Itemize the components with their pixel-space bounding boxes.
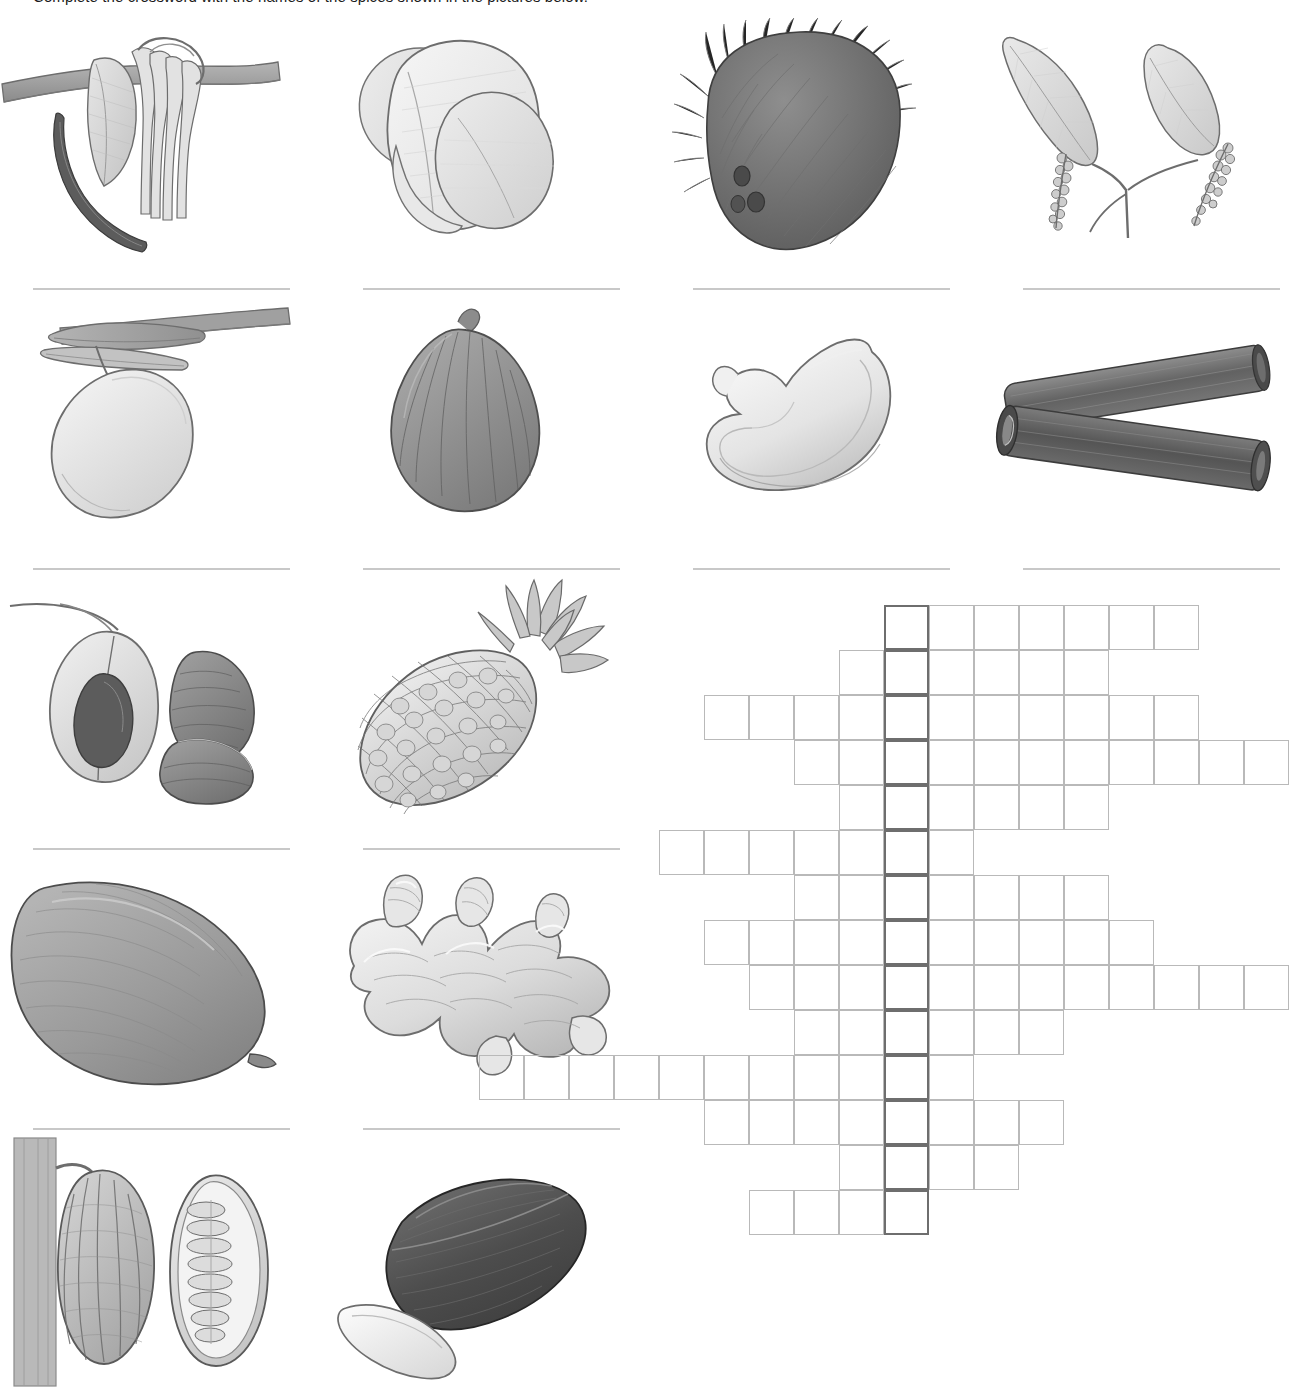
crossword-cell-r3-c16[interactable] xyxy=(1199,740,1244,785)
crossword-cell-r4-c12[interactable] xyxy=(1019,785,1064,830)
crossword-cell-r2-c15[interactable] xyxy=(1154,695,1199,740)
crossword-cell-r3-c10[interactable] xyxy=(929,740,974,785)
crossword-cell-r1-c13[interactable] xyxy=(1064,650,1109,695)
crossword-cell-r5-c9[interactable] xyxy=(884,830,929,875)
answer-line[interactable] xyxy=(1023,568,1280,570)
crossword-cell-r7-c11[interactable] xyxy=(974,920,1019,965)
answer-line[interactable] xyxy=(33,568,290,570)
answer-line[interactable] xyxy=(363,848,620,850)
crossword-cell-r4-c9[interactable] xyxy=(884,785,929,830)
crossword-cell-r11-c8[interactable] xyxy=(839,1100,884,1145)
crossword-cell-r3-c7[interactable] xyxy=(794,740,839,785)
answer-line[interactable] xyxy=(1023,288,1280,290)
crossword-cell-r6-c7[interactable] xyxy=(794,875,839,920)
crossword-cell-r10-c5[interactable] xyxy=(704,1055,749,1100)
crossword-cell-r4-c8[interactable] xyxy=(839,785,884,830)
crossword-cell-r0-c12[interactable] xyxy=(1019,605,1064,650)
crossword-cell-r9-c9[interactable] xyxy=(884,1010,929,1055)
crossword-cell-r11-c12[interactable] xyxy=(1019,1100,1064,1145)
answer-line[interactable] xyxy=(693,568,950,570)
crossword-cell-r7-c9[interactable] xyxy=(884,920,929,965)
crossword-cell-r1-c9[interactable] xyxy=(884,650,929,695)
crossword-cell-r8-c9[interactable] xyxy=(884,965,929,1010)
crossword-cell-r10-c8[interactable] xyxy=(839,1055,884,1100)
crossword-cell-r0-c13[interactable] xyxy=(1064,605,1109,650)
crossword-cell-r2-c12[interactable] xyxy=(1019,695,1064,740)
crossword-cell-r9-c8[interactable] xyxy=(839,1010,884,1055)
crossword-cell-r6-c9[interactable] xyxy=(884,875,929,920)
crossword-cell-r11-c7[interactable] xyxy=(794,1100,839,1145)
crossword-cell-r7-c8[interactable] xyxy=(839,920,884,965)
crossword-cell-r11-c5[interactable] xyxy=(704,1100,749,1145)
crossword-cell-r2-c10[interactable] xyxy=(929,695,974,740)
crossword-cell-r7-c12[interactable] xyxy=(1019,920,1064,965)
answer-line[interactable] xyxy=(693,288,950,290)
crossword-cell-r8-c11[interactable] xyxy=(974,965,1019,1010)
crossword-cell-r12-c8[interactable] xyxy=(839,1145,884,1190)
crossword-cell-r11-c6[interactable] xyxy=(749,1100,794,1145)
crossword-cell-r9-c11[interactable] xyxy=(974,1010,1019,1055)
crossword-cell-r7-c10[interactable] xyxy=(929,920,974,965)
crossword-cell-r1-c8[interactable] xyxy=(839,650,884,695)
crossword-cell-r3-c13[interactable] xyxy=(1064,740,1109,785)
crossword-cell-r8-c12[interactable] xyxy=(1019,965,1064,1010)
crossword-cell-r0-c15[interactable] xyxy=(1154,605,1199,650)
answer-line[interactable] xyxy=(33,848,290,850)
crossword-cell-r10-c4[interactable] xyxy=(659,1055,704,1100)
crossword-cell-r5-c5[interactable] xyxy=(704,830,749,875)
crossword-cell-r0-c10[interactable] xyxy=(929,605,974,650)
answer-line[interactable] xyxy=(33,288,290,290)
crossword-cell-r13-c6[interactable] xyxy=(749,1190,794,1235)
answer-line[interactable] xyxy=(363,1128,620,1130)
crossword-cell-r3-c12[interactable] xyxy=(1019,740,1064,785)
answer-line[interactable] xyxy=(33,1128,290,1130)
crossword-cell-r12-c10[interactable] xyxy=(929,1145,974,1190)
crossword-cell-r11-c11[interactable] xyxy=(974,1100,1019,1145)
crossword-cell-r6-c13[interactable] xyxy=(1064,875,1109,920)
crossword-cell-r6-c12[interactable] xyxy=(1019,875,1064,920)
crossword-cell-r10-c2[interactable] xyxy=(569,1055,614,1100)
crossword-cell-r7-c6[interactable] xyxy=(749,920,794,965)
crossword-cell-r2-c6[interactable] xyxy=(749,695,794,740)
crossword-cell-r0-c14[interactable] xyxy=(1109,605,1154,650)
crossword-cell-r10-c10[interactable] xyxy=(929,1055,974,1100)
crossword-cell-r2-c11[interactable] xyxy=(974,695,1019,740)
crossword-cell-r8-c13[interactable] xyxy=(1064,965,1109,1010)
crossword-cell-r4-c11[interactable] xyxy=(974,785,1019,830)
crossword-cell-r5-c6[interactable] xyxy=(749,830,794,875)
crossword-cell-r2-c5[interactable] xyxy=(704,695,749,740)
crossword-cell-r8-c6[interactable] xyxy=(749,965,794,1010)
crossword-cell-r10-c7[interactable] xyxy=(794,1055,839,1100)
crossword-cell-r5-c10[interactable] xyxy=(929,830,974,875)
crossword-cell-r2-c8[interactable] xyxy=(839,695,884,740)
crossword-cell-r6-c11[interactable] xyxy=(974,875,1019,920)
crossword-cell-r9-c7[interactable] xyxy=(794,1010,839,1055)
crossword-cell-r8-c14[interactable] xyxy=(1109,965,1154,1010)
crossword-cell-r12-c9[interactable] xyxy=(884,1145,929,1190)
crossword-cell-r2-c9[interactable] xyxy=(884,695,929,740)
crossword-cell-r8-c16[interactable] xyxy=(1199,965,1244,1010)
crossword-cell-r10-c9[interactable] xyxy=(884,1055,929,1100)
crossword-cell-r7-c13[interactable] xyxy=(1064,920,1109,965)
crossword-cell-r6-c8[interactable] xyxy=(839,875,884,920)
crossword-cell-r7-c5[interactable] xyxy=(704,920,749,965)
crossword-cell-r8-c8[interactable] xyxy=(839,965,884,1010)
crossword-cell-r3-c11[interactable] xyxy=(974,740,1019,785)
crossword-cell-r10-c6[interactable] xyxy=(749,1055,794,1100)
crossword-cell-r3-c15[interactable] xyxy=(1154,740,1199,785)
answer-line[interactable] xyxy=(363,288,620,290)
crossword-cell-r5-c4[interactable] xyxy=(659,830,704,875)
crossword-cell-r1-c12[interactable] xyxy=(1019,650,1064,695)
crossword-cell-r3-c9[interactable] xyxy=(884,740,929,785)
crossword-cell-r1-c11[interactable] xyxy=(974,650,1019,695)
crossword-cell-r7-c7[interactable] xyxy=(794,920,839,965)
crossword-cell-r13-c8[interactable] xyxy=(839,1190,884,1235)
crossword-cell-r10-c3[interactable] xyxy=(614,1055,659,1100)
crossword-cell-r13-c9[interactable] xyxy=(884,1190,929,1235)
crossword-cell-r2-c7[interactable] xyxy=(794,695,839,740)
crossword-cell-r11-c10[interactable] xyxy=(929,1100,974,1145)
crossword-cell-r0-c11[interactable] xyxy=(974,605,1019,650)
crossword-cell-r12-c11[interactable] xyxy=(974,1145,1019,1190)
crossword-cell-r10-c1[interactable] xyxy=(524,1055,569,1100)
crossword-cell-r3-c14[interactable] xyxy=(1109,740,1154,785)
